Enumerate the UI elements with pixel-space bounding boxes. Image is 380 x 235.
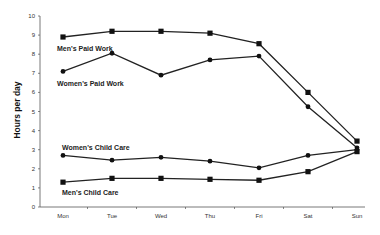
data-point bbox=[109, 176, 114, 181]
series-label-mens-paid-work: Men's Paid Work bbox=[57, 45, 113, 52]
x-tick-label: Sat bbox=[303, 213, 312, 219]
y-tick-label: 4 bbox=[32, 128, 36, 134]
data-point bbox=[208, 159, 213, 164]
y-tick-label: 3 bbox=[32, 147, 36, 153]
data-point bbox=[305, 169, 310, 174]
y-tick-label: 10 bbox=[28, 13, 35, 19]
data-point bbox=[61, 69, 66, 74]
data-point bbox=[207, 31, 212, 36]
series-label-womens-child-care: Women's Child Care bbox=[62, 144, 130, 151]
series-label-womens-paid-work: Women's Paid Work bbox=[57, 80, 124, 87]
x-tick-label: Thu bbox=[205, 213, 215, 219]
x-ticks: MonTueWedThuFriSatSun bbox=[57, 207, 362, 219]
x-tick-label: Fri bbox=[256, 213, 263, 219]
data-point bbox=[354, 149, 359, 154]
data-point bbox=[109, 29, 114, 34]
data-point bbox=[257, 165, 262, 170]
series-group bbox=[60, 29, 359, 185]
series-women-s-paid-work bbox=[61, 51, 360, 150]
data-point bbox=[306, 153, 311, 158]
data-point bbox=[158, 29, 163, 34]
data-point bbox=[159, 73, 164, 78]
y-tick-label: 0 bbox=[32, 204, 36, 210]
data-point bbox=[159, 155, 164, 160]
data-point bbox=[207, 177, 212, 182]
series-line bbox=[63, 53, 357, 148]
y-axis-title: Hours per day bbox=[12, 81, 22, 138]
y-tick-label: 6 bbox=[32, 89, 36, 95]
data-point bbox=[257, 54, 262, 59]
data-point bbox=[60, 180, 65, 185]
y-tick-label: 1 bbox=[32, 185, 36, 191]
data-point bbox=[61, 153, 66, 158]
line-chart: 012345678910 MonTueWedThuFriSatSun Hours… bbox=[0, 0, 380, 235]
data-point bbox=[208, 58, 213, 63]
data-point bbox=[256, 41, 261, 46]
x-tick-label: Sun bbox=[352, 213, 363, 219]
data-point bbox=[60, 34, 65, 39]
y-ticks: 012345678910 bbox=[28, 13, 40, 210]
data-point bbox=[306, 104, 311, 109]
series-labels: Men's Paid Work Women's Paid Work Women'… bbox=[57, 45, 130, 196]
series-label-mens-child-care: Men's Child Care bbox=[62, 189, 119, 196]
x-tick-label: Mon bbox=[57, 213, 69, 219]
x-tick-label: Tue bbox=[107, 213, 118, 219]
y-tick-label: 7 bbox=[32, 70, 36, 76]
y-tick-label: 2 bbox=[32, 166, 36, 172]
data-point bbox=[110, 158, 115, 163]
data-point bbox=[158, 176, 163, 181]
data-point bbox=[305, 90, 310, 95]
y-tick-label: 9 bbox=[32, 32, 36, 38]
x-tick-label: Wed bbox=[155, 213, 167, 219]
y-tick-label: 8 bbox=[32, 51, 36, 57]
y-tick-label: 5 bbox=[32, 109, 36, 115]
data-point bbox=[354, 139, 359, 144]
data-point bbox=[256, 178, 261, 183]
